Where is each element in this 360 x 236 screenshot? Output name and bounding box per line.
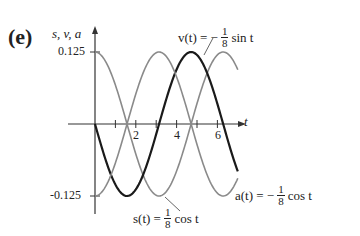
annotation-a: a(t) = − 18 cos t (235, 184, 312, 207)
annotation-s: s(t) = 18 cos t (133, 207, 199, 230)
annotation-v: v(t) = − 18 sin t (178, 26, 253, 49)
